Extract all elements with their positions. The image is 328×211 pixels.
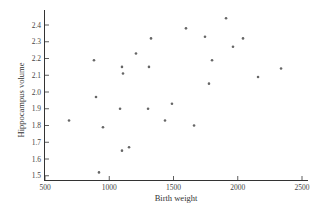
- data-points: [68, 17, 283, 174]
- x-tick-label: 2500: [295, 183, 310, 192]
- y-tick-label: 2.0: [32, 88, 42, 97]
- y-tick-label: 1.6: [32, 155, 42, 164]
- data-point: [225, 17, 228, 20]
- y-ticks: 1.51.61.71.81.92.02.12.22.32.4: [32, 21, 49, 181]
- data-point: [171, 102, 174, 105]
- y-tick-label: 2.3: [32, 37, 42, 46]
- y-tick-label: 2.4: [32, 21, 42, 30]
- data-point: [164, 119, 167, 122]
- x-tick-label: 1000: [102, 183, 117, 192]
- data-point: [135, 52, 138, 55]
- x-ticks: 5001000150020002500: [39, 176, 309, 192]
- data-point: [121, 66, 124, 69]
- data-point: [68, 119, 71, 122]
- y-tick-label: 1.5: [32, 171, 42, 180]
- data-point: [208, 82, 211, 85]
- y-tick-label: 2.1: [32, 71, 42, 80]
- data-point: [95, 96, 98, 99]
- scatter-plot: 1.51.61.71.81.92.02.12.22.32.4 500100015…: [0, 0, 328, 211]
- data-point: [193, 124, 196, 127]
- data-point: [121, 149, 124, 152]
- y-axis-label: Hippocampus volume: [16, 62, 26, 137]
- x-tick-label: 1500: [166, 183, 181, 192]
- y-tick-label: 1.8: [32, 121, 42, 130]
- data-point: [211, 59, 214, 62]
- y-tick-label: 1.7: [32, 138, 42, 147]
- data-point: [204, 35, 207, 38]
- data-point: [232, 45, 235, 48]
- data-point: [122, 72, 125, 75]
- data-point: [128, 146, 131, 149]
- data-point: [185, 27, 188, 30]
- data-point: [102, 126, 105, 129]
- data-point: [93, 59, 96, 62]
- data-point: [242, 37, 245, 40]
- data-point: [147, 107, 150, 110]
- data-point: [98, 171, 101, 174]
- x-axis-label: Birth weight: [155, 193, 198, 203]
- y-tick-label: 2.2: [32, 54, 42, 63]
- data-point: [150, 37, 153, 40]
- x-tick-label: 500: [39, 183, 51, 192]
- axes: 1.51.61.71.81.92.02.12.22.32.4 500100015…: [32, 10, 310, 192]
- x-tick-label: 2000: [230, 183, 245, 192]
- data-point: [119, 107, 122, 110]
- data-point: [148, 66, 151, 69]
- y-tick-label: 1.9: [32, 104, 42, 113]
- data-point: [280, 67, 283, 70]
- data-point: [257, 76, 260, 79]
